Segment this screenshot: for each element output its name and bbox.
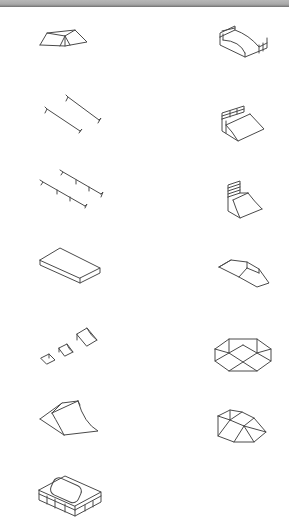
palette-item-kicker-set[interactable]: Kicker set [30, 315, 110, 370]
obstacle-palette: Pyramid Half pipe Flat rails [0, 7, 289, 520]
palette-item-bowl[interactable]: Bowl [30, 472, 110, 517]
palette-item-kicker-ramp[interactable]: Kicker ramp [30, 392, 110, 442]
palette-item-long-rails[interactable]: Long rails [30, 167, 110, 212]
palette-item-flat-rails[interactable]: Flat rails [30, 92, 110, 137]
palette-item-quarter-pipe[interactable]: Quarter pipe [210, 172, 275, 222]
palette-item-half-pipe[interactable]: Half pipe [210, 21, 275, 61]
palette-item-quarter-pipe-deck[interactable]: Quarter pipe with deck [210, 97, 275, 147]
dome-small-icon [214, 408, 272, 444]
funbox-icon [217, 257, 273, 287]
dome-large-icon [213, 335, 273, 375]
palette-item-funbox[interactable]: Funbox [212, 252, 277, 292]
half-pipe-icon [215, 23, 270, 59]
window-top-bar [0, 0, 289, 7]
bowl-icon [37, 474, 103, 516]
palette-item-dome-large[interactable]: Dome large [210, 332, 275, 377]
flat-rails-icon [35, 95, 105, 135]
quarter-pipe-icon [218, 175, 268, 220]
kicker-set-icon [39, 320, 101, 366]
long-rails-icon [35, 170, 105, 210]
quarter-pipe-deck-icon [218, 101, 268, 143]
palette-item-pyramid[interactable]: Pyramid [30, 21, 110, 55]
box-icon [38, 246, 102, 280]
kicker-ramp-icon [38, 397, 102, 437]
palette-item-box[interactable]: Box [30, 242, 110, 284]
palette-item-dome-small[interactable]: Dome small [210, 405, 275, 447]
pyramid-icon [35, 28, 105, 48]
